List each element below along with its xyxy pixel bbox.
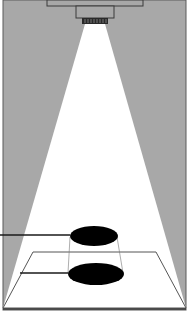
lamp-grille bbox=[82, 18, 108, 24]
ceiling-bar bbox=[47, 0, 143, 6]
diagram-canvas: Lamp light cone projecting an object's s… bbox=[0, 0, 193, 312]
object-disc bbox=[70, 226, 118, 246]
shadow-disc bbox=[68, 263, 124, 285]
lamp-housing bbox=[76, 6, 114, 18]
